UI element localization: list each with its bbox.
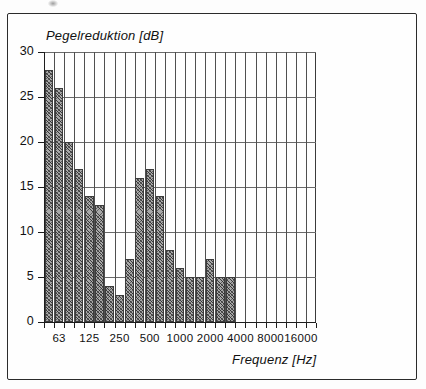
x-tick-mark — [205, 323, 206, 328]
bar — [65, 142, 73, 322]
y-tick-label: 10 — [4, 224, 34, 238]
gridline-vertical — [306, 52, 307, 322]
y-tick-mark — [38, 232, 44, 233]
gridline-vertical — [235, 52, 236, 322]
bar — [166, 250, 174, 322]
gridline-vertical — [256, 52, 257, 322]
x-tick-mark — [175, 323, 176, 328]
y-tick-mark — [38, 52, 44, 53]
x-tick-mark — [74, 323, 75, 328]
bar — [105, 286, 113, 322]
bar — [156, 196, 164, 322]
x-tick-label: 250 — [110, 332, 130, 344]
y-tick-label: 5 — [4, 269, 34, 283]
x-tick-mark — [54, 323, 55, 328]
bar — [216, 277, 224, 322]
bar — [95, 205, 103, 322]
y-tick-label: 30 — [4, 44, 34, 58]
x-tick-mark — [145, 323, 146, 328]
gridline-vertical — [276, 52, 277, 322]
bar — [196, 277, 204, 322]
x-tick-label: 2000 — [197, 332, 224, 344]
x-tick-mark — [235, 323, 236, 328]
bar — [45, 70, 53, 322]
x-tick-label: 63 — [52, 332, 65, 344]
x-tick-mark — [286, 323, 287, 328]
x-tick-mark — [115, 323, 116, 328]
x-tick-mark — [64, 323, 65, 328]
x-tick-mark — [296, 323, 297, 328]
x-tick-mark — [245, 323, 246, 328]
x-axis-title: Frequenz [Hz] — [232, 352, 316, 367]
x-tick-label: 500 — [140, 332, 160, 344]
y-tick-label: 25 — [4, 89, 34, 103]
y-tick-label: 20 — [4, 134, 34, 148]
x-tick-mark — [276, 323, 277, 328]
y-axis-title: Pegelreduktion [dB] — [46, 28, 163, 43]
bar — [115, 295, 123, 322]
x-tick-mark — [266, 323, 267, 328]
gridline-vertical — [296, 52, 297, 322]
x-tick-mark — [44, 323, 45, 328]
x-tick-mark — [165, 323, 166, 328]
x-tick-mark — [316, 323, 317, 328]
x-tick-mark — [125, 323, 126, 328]
y-tick-mark — [38, 277, 44, 278]
y-tick-mark — [38, 187, 44, 188]
x-tick-mark — [225, 323, 226, 328]
x-tick-label: 125 — [79, 332, 99, 344]
x-tick-label: 1000 — [167, 332, 194, 344]
x-tick-label: 4000 — [227, 332, 254, 344]
y-tick-mark — [38, 142, 44, 143]
x-tick-mark — [195, 323, 196, 328]
gridline-vertical — [115, 52, 116, 322]
bar — [135, 178, 143, 322]
x-tick-mark — [185, 323, 186, 328]
bar — [146, 169, 154, 322]
x-tick-mark — [94, 323, 95, 328]
x-tick-mark — [104, 323, 105, 328]
gridline-vertical — [245, 52, 246, 322]
x-tick-mark — [306, 323, 307, 328]
gridline-vertical — [266, 52, 267, 322]
x-tick-mark — [215, 323, 216, 328]
figure-canvas: Pegelreduktion [dB] 051015202530 6312525… — [0, 0, 426, 389]
x-tick-mark — [155, 323, 156, 328]
x-tick-mark — [135, 323, 136, 328]
x-tick-mark — [256, 323, 257, 328]
x-tick-label: 16000 — [284, 332, 317, 344]
gridline-vertical — [286, 52, 287, 322]
scan-artifact — [48, 0, 58, 7]
bar — [85, 196, 93, 322]
bar — [186, 277, 194, 322]
y-tick-label: 0 — [4, 314, 34, 328]
gridline-vertical — [104, 52, 105, 322]
bar — [55, 88, 63, 322]
x-tick-label: 8000 — [257, 332, 284, 344]
bar — [125, 259, 133, 322]
bar — [206, 259, 214, 322]
bar — [75, 169, 83, 322]
y-tick-mark — [38, 97, 44, 98]
x-tick-mark — [84, 323, 85, 328]
bar — [176, 268, 184, 322]
bar — [226, 277, 234, 322]
y-tick-label: 15 — [4, 179, 34, 193]
